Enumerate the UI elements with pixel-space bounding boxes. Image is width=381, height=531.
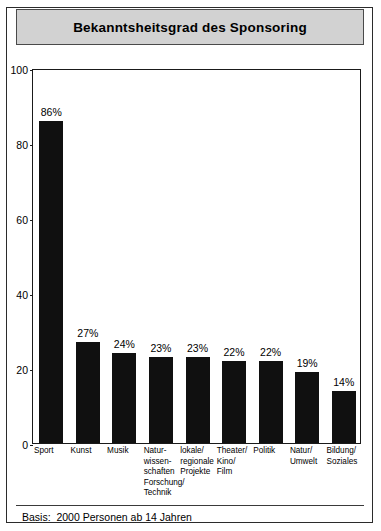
bar-series: 86%27%24%23%23%22%22%19%14% — [33, 70, 360, 443]
bar-slot: 22% — [222, 70, 246, 443]
bar-slot: 27% — [76, 70, 100, 443]
y-axis-tick-label: 0 — [0, 439, 28, 451]
footer-divider — [16, 505, 364, 506]
y-axis-tick-label: 100 — [0, 64, 28, 76]
bar-slot: 14% — [332, 70, 356, 443]
bar — [295, 372, 319, 443]
bar-slot: 22% — [259, 70, 283, 443]
bar — [76, 342, 100, 443]
bar-value-label: 19% — [286, 357, 328, 369]
basis-note: Basis: 2000 Personen ab 14 Jahren — [22, 511, 192, 523]
bar — [222, 361, 246, 444]
bar-slot: 86% — [39, 70, 63, 443]
y-axis-tick-label: 80 — [0, 139, 28, 151]
bar — [259, 361, 283, 444]
bar — [112, 353, 136, 443]
y-axis-tick-label: 40 — [0, 289, 28, 301]
plot-area: 020406080100 86%27%24%23%23%22%22%19%14% — [32, 69, 361, 444]
bar-value-label: 27% — [67, 327, 109, 339]
x-axis-category-label: Bildung/ Soziales — [326, 446, 369, 467]
y-axis-tick-label: 60 — [0, 214, 28, 226]
chart-title-band: Bekanntsheitsgrad des Sponsoring — [16, 9, 364, 45]
bar — [332, 391, 356, 444]
y-axis-tick-label: 20 — [0, 364, 28, 376]
bar-slot: 24% — [112, 70, 136, 443]
x-axis-labels: SportKunstMusikNatur- wissen- schaften F… — [32, 446, 361, 508]
bar-slot: 23% — [149, 70, 173, 443]
bar-value-label: 14% — [323, 376, 365, 388]
bar-slot: 23% — [186, 70, 210, 443]
bar — [186, 357, 210, 443]
bar-slot: 19% — [295, 70, 319, 443]
page-title: Bekanntsheitsgrad des Sponsoring — [73, 20, 307, 35]
bar-value-label: 86% — [30, 106, 72, 118]
bar-value-label: 22% — [250, 346, 292, 358]
bar — [149, 357, 173, 443]
chart-figure: Bekanntsheitsgrad des Sponsoring 0204060… — [6, 7, 373, 523]
bar — [39, 121, 63, 444]
